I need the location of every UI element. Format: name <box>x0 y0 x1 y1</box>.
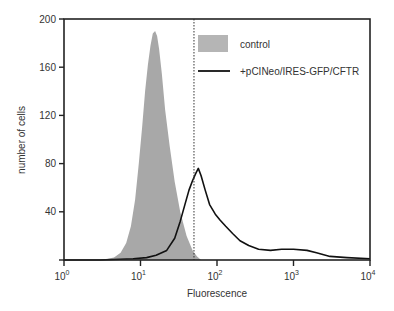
y-tick-label: 80 <box>45 158 57 169</box>
x-tick-label: 100 <box>54 269 69 282</box>
series-cftr-line <box>64 168 370 260</box>
flow-cytometry-histogram: 4080120160200 100101102103104 Fluorescen… <box>0 0 394 311</box>
legend-swatch-control <box>198 35 228 52</box>
y-tick-label: 160 <box>39 62 56 73</box>
legend: control +pCINeo/IRES-GFP/CFTR <box>198 35 359 77</box>
y-axis-ticks: 4080120160200 <box>39 14 64 261</box>
legend-label-control: control <box>240 39 270 50</box>
y-tick-label: 200 <box>39 14 56 25</box>
y-tick-label: 40 <box>45 206 57 217</box>
y-tick-label: 120 <box>39 110 56 121</box>
legend-label-cftr: +pCINeo/IRES-GFP/CFTR <box>240 66 359 77</box>
x-tick-label: 104 <box>360 269 375 282</box>
x-tick-label: 101 <box>131 269 146 282</box>
series-control-area <box>101 31 202 260</box>
x-tick-label: 103 <box>284 269 299 282</box>
x-tick-label: 102 <box>207 269 222 282</box>
y-axis-label: number of cells <box>16 106 27 174</box>
x-axis-label: Fluorescence <box>187 288 247 299</box>
plot-frame <box>64 19 370 260</box>
x-axis-ticks: 100101102103104 <box>54 260 375 282</box>
